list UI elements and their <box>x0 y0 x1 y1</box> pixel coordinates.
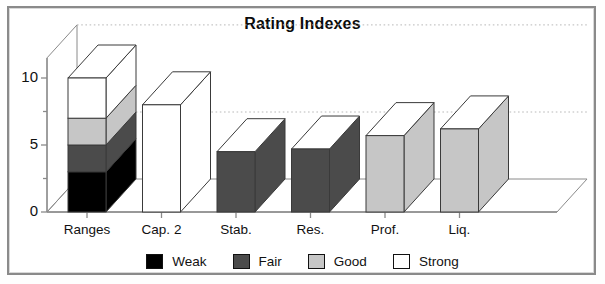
y-axis-tick-label: 10 <box>8 68 38 85</box>
legend-label: Weak <box>172 254 206 269</box>
chart-plot-area <box>0 0 605 284</box>
legend-swatch-good <box>308 254 325 269</box>
legend-label: Strong <box>419 254 459 269</box>
y-axis-tick-label: 0 <box>8 202 38 219</box>
legend-swatch-weak <box>146 254 163 269</box>
chart-legend: WeakFairGoodStrong <box>0 249 605 273</box>
legend-item[interactable]: Strong <box>393 254 459 269</box>
legend-swatch-strong <box>393 254 410 269</box>
legend-label: Good <box>334 254 367 269</box>
legend-swatch-fair <box>233 254 250 269</box>
legend-item[interactable]: Fair <box>233 254 282 269</box>
legend-item[interactable]: Good <box>308 254 367 269</box>
x-axis-category-label: Liq. <box>415 222 505 237</box>
legend-item[interactable]: Weak <box>146 254 206 269</box>
screenshot-root: Rating Indexes 1050 RangesCap. 2Stab.Res… <box>0 0 605 284</box>
y-axis-tick-label: 5 <box>8 135 38 152</box>
legend-label: Fair <box>259 254 282 269</box>
